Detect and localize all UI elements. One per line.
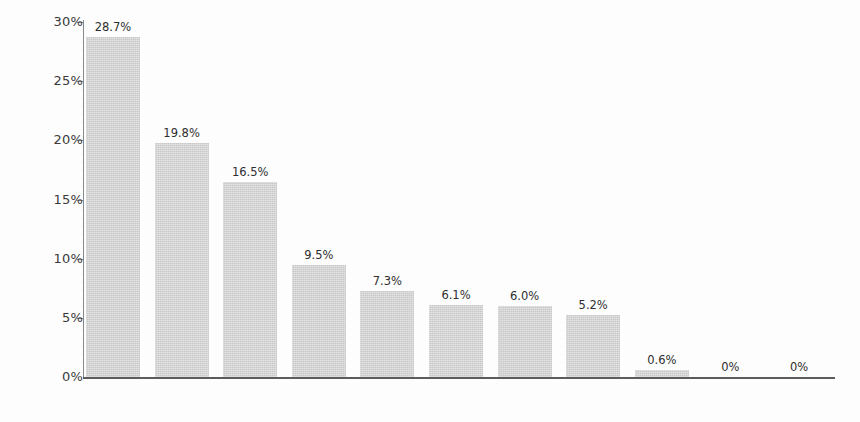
bar[interactable] bbox=[566, 315, 620, 377]
bar[interactable] bbox=[498, 306, 552, 377]
y-axis-tick-label: 20% bbox=[9, 132, 83, 147]
y-axis-tick-label: 25% bbox=[9, 73, 83, 88]
bar[interactable] bbox=[155, 143, 209, 377]
bar[interactable] bbox=[86, 37, 140, 377]
bar-value-label: 5.2% bbox=[556, 298, 630, 312]
bar[interactable] bbox=[292, 265, 346, 377]
bar-value-label: 0% bbox=[693, 360, 767, 374]
bar-value-label: 16.5% bbox=[213, 165, 287, 179]
bar-value-label: 0% bbox=[762, 360, 836, 374]
bar-value-label: 28.7% bbox=[76, 20, 150, 34]
bar[interactable] bbox=[635, 370, 689, 377]
bar[interactable] bbox=[360, 291, 414, 377]
bar[interactable] bbox=[429, 305, 483, 377]
bar[interactable] bbox=[223, 182, 277, 377]
bar-value-label: 7.3% bbox=[350, 274, 424, 288]
bar-chart: 0%5%10%15%20%25%30% 28.7%CREON19.8%CHORU… bbox=[0, 0, 860, 422]
y-axis-tick-label: 5% bbox=[9, 310, 83, 325]
y-axis-tick-label: 15% bbox=[9, 192, 83, 207]
y-axis-tick-label: 10% bbox=[9, 251, 83, 266]
bar-value-label: 9.5% bbox=[282, 248, 356, 262]
y-axis-tick-label: 0% bbox=[9, 369, 83, 384]
bar-value-label: 6.0% bbox=[488, 289, 562, 303]
bar-value-label: 0.6% bbox=[625, 353, 699, 367]
y-axis-tick-label: 30% bbox=[9, 14, 83, 29]
x-axis-line bbox=[83, 377, 835, 379]
bar-value-label: 6.1% bbox=[419, 288, 493, 302]
bar-value-label: 19.8% bbox=[145, 126, 219, 140]
y-axis-line bbox=[83, 20, 84, 378]
